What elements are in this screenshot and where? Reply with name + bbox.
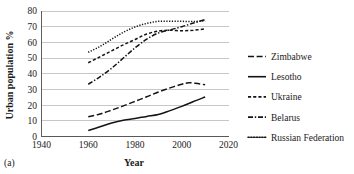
y-tick-label: 70 <box>28 22 38 32</box>
legend-label: Belarus <box>271 113 300 123</box>
legend-label: Lesotho <box>271 72 302 82</box>
y-tick-labels: 01020304050607080 <box>28 6 38 142</box>
legend-item-belarus[interactable]: Belarus <box>248 113 300 123</box>
series-line-zimbabwe <box>88 83 205 117</box>
series-line-belarus <box>88 20 205 85</box>
legend-item-lesotho[interactable]: Lesotho <box>248 72 302 82</box>
x-tick-label: 2020 <box>219 140 238 150</box>
x-tick-label: 1960 <box>79 140 98 150</box>
legend-item-russian-federation[interactable]: Russian Federation <box>248 133 344 143</box>
y-tick-label: 60 <box>28 38 38 48</box>
y-tick-label: 50 <box>28 53 38 63</box>
x-tick-label: 2000 <box>172 140 191 150</box>
line-chart: 01020304050607080 19401960198020002020 Z… <box>0 0 354 174</box>
legend-label: Russian Federation <box>271 133 344 143</box>
legend-label: Ukraine <box>271 92 302 102</box>
legend: ZimbabweLesothoUkraineBelarusRussian Fed… <box>248 52 344 143</box>
y-tick-label: 10 <box>28 116 38 126</box>
series-lines <box>88 20 205 131</box>
panel-label: (a) <box>4 158 15 169</box>
legend-label: Zimbabwe <box>271 52 312 62</box>
x-axis-title: Year <box>124 157 145 168</box>
legend-item-zimbabwe[interactable]: Zimbabwe <box>248 52 312 62</box>
x-tick-label: 1980 <box>126 140 145 150</box>
y-tick-label: 40 <box>28 69 38 79</box>
gridlines <box>42 11 229 137</box>
y-tick-label: 20 <box>28 101 38 111</box>
y-tick-label: 80 <box>28 6 38 16</box>
x-tick-labels: 19401960198020002020 <box>32 140 238 150</box>
x-tick-label: 1940 <box>32 140 51 150</box>
series-line-lesotho <box>88 97 205 131</box>
y-tick-label: 30 <box>28 85 38 95</box>
chart-figure: 01020304050607080 19401960198020002020 Z… <box>0 0 354 174</box>
y-axis-title: Urban population % <box>4 31 15 120</box>
legend-item-ukraine[interactable]: Ukraine <box>248 92 302 102</box>
